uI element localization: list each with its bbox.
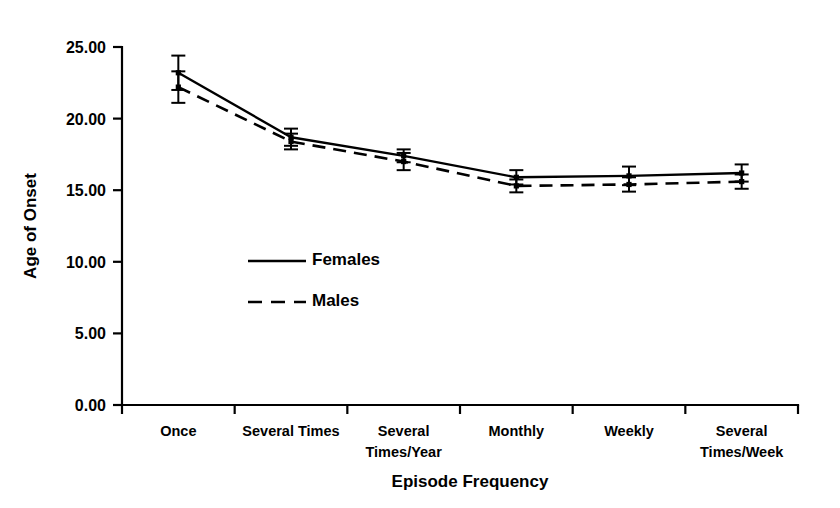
x-category-label: Weekly <box>604 423 654 439</box>
y-tick-label: 10.00 <box>66 254 106 271</box>
chart-figure: 0.005.0010.0015.0020.0025.00 Age of Onse… <box>0 0 840 508</box>
x-category-label: Monthly <box>489 423 545 439</box>
x-category-label: Once <box>160 423 196 439</box>
line-chart-with-error-bars: 0.005.0010.0015.0020.0025.00 Age of Onse… <box>0 0 840 508</box>
y-tick-label: 20.00 <box>66 111 106 128</box>
data-point <box>288 139 293 144</box>
data-point <box>514 183 519 188</box>
legend-label-females: Females <box>312 250 380 269</box>
data-point <box>739 179 744 184</box>
y-tick-label: 15.00 <box>66 182 106 199</box>
y-tick-label: 0.00 <box>75 397 106 414</box>
legend-label-males: Males <box>312 291 359 310</box>
y-tick-label: 25.00 <box>66 39 106 56</box>
data-point <box>176 84 181 89</box>
data-point <box>626 182 631 187</box>
y-tick-label: 5.00 <box>75 325 106 342</box>
x-axis-title: Episode Frequency <box>392 472 549 491</box>
y-axis-title: Age of Onset <box>21 173 40 279</box>
x-category-label: Several Times <box>242 423 339 439</box>
data-point <box>401 159 406 164</box>
